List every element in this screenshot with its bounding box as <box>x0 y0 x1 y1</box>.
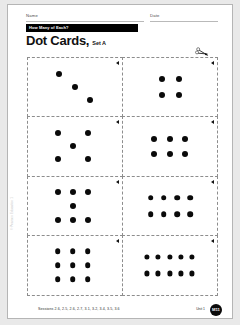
dot-field <box>28 177 122 236</box>
dot-field <box>28 236 122 295</box>
dot-field <box>123 58 217 117</box>
name-label: Name <box>26 13 38 18</box>
dot <box>72 84 78 90</box>
scissors-icon <box>194 45 210 57</box>
dot-field <box>28 117 122 176</box>
dot <box>55 262 61 268</box>
dot <box>70 189 76 195</box>
dot-card[interactable] <box>122 235 218 296</box>
dot <box>167 271 172 276</box>
dot <box>85 189 91 195</box>
dot <box>182 151 188 157</box>
dot-field <box>28 58 122 117</box>
dot <box>151 136 157 142</box>
dot-field <box>123 236 217 295</box>
dot <box>167 254 172 259</box>
dot <box>55 189 61 195</box>
dot <box>156 271 161 276</box>
date-label: Date <box>150 13 160 18</box>
dot <box>55 156 61 162</box>
dot <box>144 254 149 259</box>
dot-field <box>123 117 217 176</box>
dot <box>182 136 188 142</box>
dot-card[interactable] <box>27 57 123 118</box>
dot <box>189 271 194 276</box>
dot <box>167 136 173 142</box>
dot <box>55 217 61 223</box>
dot <box>161 211 167 217</box>
dot <box>70 217 76 223</box>
name-field[interactable]: Name <box>26 13 144 24</box>
dot <box>148 211 154 217</box>
dot <box>159 92 165 98</box>
side-copyright: © Pearson Education 1 <box>10 197 14 230</box>
page-footer: Sessions 2.6, 2.5, 2.6, 2.7, 3.1, 3.2, 3… <box>26 303 222 317</box>
page-title-sub: Set A <box>92 40 106 46</box>
dot <box>159 76 165 82</box>
dot-field <box>123 177 217 236</box>
dot <box>174 195 180 201</box>
dot <box>144 271 149 276</box>
dot <box>148 195 154 201</box>
page-title: Dot Cards, Set A <box>26 33 106 48</box>
dot-card[interactable] <box>27 235 123 296</box>
dot <box>70 262 76 268</box>
dot-card[interactable] <box>122 116 218 177</box>
dot <box>85 248 91 254</box>
date-field[interactable]: Date <box>150 13 218 24</box>
unit-banner: How Many of Each? <box>26 24 138 32</box>
dot-card-grid <box>27 57 217 295</box>
dot <box>70 276 76 282</box>
dot <box>55 130 61 136</box>
dot <box>156 254 161 259</box>
unit-banner-text: How Many of Each? <box>26 25 68 30</box>
dot-card[interactable] <box>122 176 218 237</box>
dot <box>87 97 93 103</box>
dot <box>187 195 193 201</box>
dot <box>85 217 91 223</box>
dot <box>178 271 183 276</box>
dot <box>85 276 91 282</box>
dot <box>161 195 167 201</box>
dot <box>189 254 194 259</box>
dot <box>176 92 182 98</box>
dot <box>55 248 61 254</box>
footer-unit: Unit 1 <box>196 307 205 311</box>
name-rule <box>26 21 144 22</box>
dot-card[interactable] <box>27 176 123 237</box>
dot <box>85 130 91 136</box>
dot <box>55 276 61 282</box>
dot <box>167 151 173 157</box>
dot-card[interactable] <box>27 116 123 177</box>
date-rule <box>150 21 218 22</box>
worksheet-page: Name Date How Many of Each? Dot Cards, S… <box>7 4 233 319</box>
footer-sessions: Sessions 2.6, 2.5, 2.6, 2.7, 3.1, 3.2, 3… <box>38 307 120 311</box>
dot <box>70 203 76 209</box>
dot <box>70 248 76 254</box>
dot <box>85 156 91 162</box>
footer-badge: M11 <box>210 304 222 316</box>
dot <box>178 254 183 259</box>
dot <box>56 71 62 77</box>
dot <box>70 143 76 149</box>
dot-card[interactable] <box>122 57 218 118</box>
dot <box>176 76 182 82</box>
dot <box>174 211 180 217</box>
name-date-row: Name Date <box>26 13 218 24</box>
dot <box>187 211 193 217</box>
page-title-main: Dot Cards, <box>26 33 89 48</box>
dot <box>85 262 91 268</box>
dot <box>151 151 157 157</box>
